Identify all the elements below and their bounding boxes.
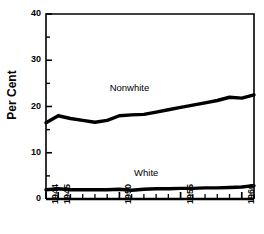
y-tick-label: 0 (19, 193, 41, 203)
y-tick-label: 30 (19, 54, 41, 64)
series-line-nonwhite (46, 95, 254, 123)
x-tick-label: 1945 (62, 184, 72, 204)
y-tick-label: 40 (19, 8, 41, 18)
chart-figure: Per Cent 01020304019441945195019551960No… (0, 0, 264, 234)
x-tick-label: 1960 (246, 184, 256, 204)
x-tick-label: 1950 (123, 184, 133, 204)
y-tick-label: 10 (19, 147, 41, 157)
x-tick-label: 1944 (50, 184, 60, 204)
x-tick-label: 1955 (185, 184, 195, 204)
series-label-nonwhite: Nonwhite (110, 82, 150, 93)
series-line-white (46, 186, 254, 191)
y-tick-label: 20 (19, 101, 41, 111)
series-label-white: White (134, 167, 158, 178)
